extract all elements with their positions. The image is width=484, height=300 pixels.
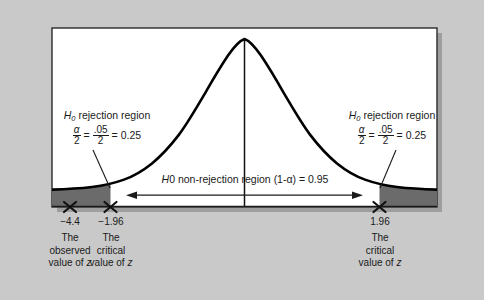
left-equals-1: = xyxy=(84,130,90,142)
left-p-fraction: .05 2 xyxy=(93,125,109,146)
non-rejection-region-label: H0 non-rejection region (1-α) = 0.95 xyxy=(145,174,345,186)
critical-left-caption-line3-text: value of xyxy=(90,257,128,268)
right-alpha-equation: α 2 = .05 2 = 0.25 xyxy=(322,125,462,146)
left-rejection-region-title: H0 rejection region xyxy=(37,110,177,123)
axis-caption-critical-left: The critical value of z xyxy=(77,232,145,270)
critical-right-caption-line2: critical xyxy=(346,245,414,258)
left-rejection-region-text: rejection region xyxy=(76,109,151,121)
left-p-denominator: 2 xyxy=(98,136,104,146)
critical-right-caption-line3: value of z xyxy=(346,257,414,270)
critical-left-caption-line3: value of z xyxy=(77,257,145,270)
left-alpha-fraction: α 2 xyxy=(73,125,81,146)
critical-right-caption-line1: The xyxy=(346,232,414,245)
right-alpha-value: 0.25 xyxy=(406,130,426,142)
critical-left-caption-line2: critical xyxy=(77,245,145,258)
right-alpha-fraction: α 2 xyxy=(358,125,366,146)
left-alpha-value: 0.25 xyxy=(121,130,141,142)
critical-right-caption-z-var: z xyxy=(396,257,401,268)
right-p-denominator: 2 xyxy=(383,136,389,146)
right-equals-1: = xyxy=(369,130,375,142)
critical-left-caption-line1: The xyxy=(77,232,145,245)
critical-right-caption-line3-text: value of xyxy=(359,257,397,268)
axis-value-critical-left: −1.96 xyxy=(84,216,138,227)
axis-caption-critical-right: The critical value of z xyxy=(346,232,414,270)
left-equals-2: = xyxy=(112,130,118,142)
non-rejection-region-text: non-rejection region (1-α) = 0.95 xyxy=(175,173,328,185)
left-alpha-equation: α 2 = .05 2 = 0.25 xyxy=(37,125,177,146)
critical-left-caption-z-var: z xyxy=(127,257,132,268)
right-equals-2: = xyxy=(397,130,403,142)
left-rejection-region-label: H0 rejection region α 2 = .05 2 = 0.25 xyxy=(37,110,177,146)
right-alpha-denominator: 2 xyxy=(359,136,365,146)
right-rejection-region-text: rejection region xyxy=(361,109,436,121)
center-h0-symbol: H xyxy=(162,173,170,185)
figure-container: H0 rejection region α 2 = .05 2 = 0.25 H… xyxy=(0,0,484,300)
axis-value-critical-right: 1.96 xyxy=(353,216,407,227)
right-rejection-region-label: H0 rejection region α 2 = .05 2 = 0.25 xyxy=(322,110,462,146)
left-alpha-denominator: 2 xyxy=(74,136,80,146)
right-rejection-region-title: H0 rejection region xyxy=(322,110,462,123)
right-p-fraction: .05 2 xyxy=(378,125,394,146)
